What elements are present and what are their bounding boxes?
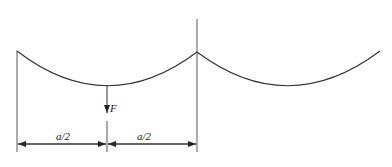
- left-span-label: a/2: [56, 130, 71, 142]
- diagram-canvas: F a/2 a/2: [0, 0, 392, 167]
- right-cable-curve: [197, 51, 380, 86]
- left-cable-curve: [17, 51, 197, 86]
- force-label: F: [109, 102, 117, 114]
- right-span-label: a/2: [137, 130, 152, 142]
